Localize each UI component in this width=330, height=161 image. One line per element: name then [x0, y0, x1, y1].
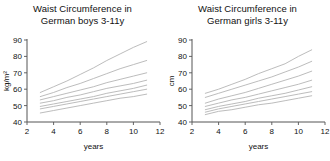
chart-panel-girls: Waist Circumference in German girls 3-11…	[165, 0, 330, 161]
y-tick-label-boys-0: 40	[13, 118, 22, 127]
y-tick-label-boys-4: 80	[13, 52, 22, 61]
chart-panel-boys: Waist Circumference in German boys 3-11y…	[0, 0, 165, 161]
x-tick-label-girls-1: 4	[216, 127, 221, 136]
x-tick-label-girls-5: 12	[321, 127, 330, 136]
plot-area-girls: 40506070809024681012yearscm	[165, 34, 330, 161]
plot-svg-boys: 40506070809024681012yearskg/m²	[0, 34, 165, 161]
y-tick-label-girls-4: 80	[178, 52, 187, 61]
x-tick-label-boys-2: 6	[78, 127, 83, 136]
percentile-curve-boys-P90	[40, 61, 146, 97]
x-axis-title-girls: years	[249, 142, 269, 151]
x-tick-label-boys-0: 2	[25, 127, 30, 136]
x-tick-label-boys-5: 12	[156, 127, 165, 136]
plot-svg-girls: 40506070809024681012yearscm	[165, 34, 330, 161]
y-tick-label-boys-2: 60	[13, 85, 22, 94]
x-tick-label-boys-1: 4	[51, 127, 56, 136]
y-axis-title-boys: kg/m²	[2, 71, 11, 91]
y-tick-label-girls-2: 60	[178, 85, 187, 94]
percentile-curve-girls-P10	[205, 92, 311, 113]
percentile-curve-boys-P10	[40, 89, 146, 109]
plot-area-boys: 40506070809024681012yearskg/m²	[0, 34, 165, 161]
axis-spines-boys	[27, 39, 160, 122]
y-tick-label-boys-5: 90	[13, 36, 22, 45]
x-tick-label-girls-3: 8	[270, 127, 275, 136]
x-axis-title-boys: years	[84, 142, 104, 151]
percentile-curve-boys-P97	[40, 42, 146, 93]
y-tick-label-girls-0: 40	[178, 118, 187, 127]
y-tick-label-girls-3: 70	[178, 69, 187, 78]
percentile-curve-girls-P90	[205, 61, 311, 97]
chart-title-boys: Waist Circumference in German boys 3-11y	[0, 0, 165, 26]
x-tick-label-girls-4: 10	[294, 127, 303, 136]
chart-title-girls: Waist Circumference in German girls 3-11…	[165, 0, 330, 26]
x-tick-label-boys-3: 8	[105, 127, 110, 136]
percentile-curve-girls-P97	[205, 50, 311, 93]
y-tick-label-girls-1: 50	[178, 102, 187, 111]
x-tick-label-boys-4: 10	[129, 127, 138, 136]
axis-spines-girls	[192, 39, 325, 122]
y-axis-title-girls: cm	[167, 75, 176, 86]
y-tick-label-boys-3: 70	[13, 69, 22, 78]
percentile-curve-boys-P75	[40, 73, 146, 100]
y-tick-label-girls-5: 90	[178, 36, 187, 45]
x-tick-label-girls-2: 6	[243, 127, 248, 136]
x-tick-label-girls-0: 2	[190, 127, 195, 136]
figure-root: Waist Circumference in German boys 3-11y…	[0, 0, 330, 161]
y-tick-label-boys-1: 50	[13, 102, 22, 111]
percentile-curve-girls-P50	[205, 80, 311, 106]
